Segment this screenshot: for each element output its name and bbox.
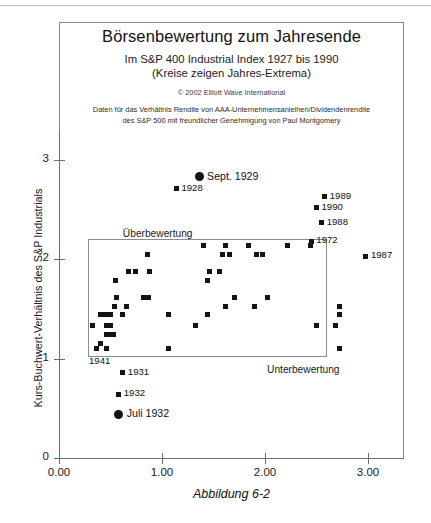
data-point [90, 323, 95, 328]
y-tick-mark [54, 359, 65, 360]
data-point [114, 295, 119, 300]
data-point [112, 304, 117, 309]
data-point [308, 243, 313, 248]
data-point [174, 186, 179, 191]
data-point-label: 1989 [330, 190, 351, 201]
data-point [205, 312, 210, 317]
data-point [314, 205, 319, 210]
data-point [265, 295, 270, 300]
data-point-label: 1972 [316, 234, 337, 245]
data-point [333, 323, 338, 328]
data-point [193, 323, 198, 328]
x-tick-label: 0.00 [29, 466, 89, 478]
figure-caption: Abbildung 6-2 [59, 487, 404, 501]
data-point-label: 1928 [181, 182, 202, 193]
data-point-extreme [114, 410, 123, 419]
valuation-reference-box [88, 239, 327, 356]
data-point [223, 243, 228, 248]
data-point [319, 220, 324, 225]
data-point [116, 392, 121, 397]
data-point [252, 304, 257, 309]
data-point [314, 323, 319, 328]
x-tick-label: 2.00 [235, 466, 295, 478]
data-point [246, 243, 251, 248]
data-point [111, 332, 116, 337]
zone-label-undervaluation: Unterbewertung [267, 364, 340, 375]
zone-label-overvaluation: Überbewertung [123, 228, 193, 239]
data-point [94, 346, 99, 351]
data-point [124, 304, 129, 309]
data-point [205, 278, 210, 283]
y-tick-label: 2 [27, 251, 49, 263]
x-tick-label: 1.00 [132, 466, 192, 478]
data-point-label: 1941 [89, 355, 110, 366]
x-tick-mark [59, 453, 60, 464]
y-tick-label: 0 [27, 450, 49, 462]
y-axis-title: Kurs-Buchwert-Verhältnis des S&P Industr… [32, 168, 44, 428]
data-point [108, 323, 113, 328]
data-point [232, 295, 237, 300]
data-point-label: 1931 [128, 366, 149, 377]
x-tick-mark [162, 453, 163, 464]
data-point [217, 269, 222, 274]
data-point [207, 269, 212, 274]
data-point [337, 304, 342, 309]
data-point [322, 194, 327, 199]
y-axis-line [59, 130, 60, 459]
data-point-label: 1990 [322, 201, 343, 212]
data-point [146, 295, 151, 300]
data-point-label: 1932 [124, 387, 145, 398]
x-tick-mark [368, 453, 369, 464]
data-point [145, 252, 150, 257]
y-tick-label: 1 [27, 351, 49, 363]
data-point [201, 243, 206, 248]
x-axis-line [59, 458, 404, 459]
x-tick-label: 3.00 [338, 466, 398, 478]
data-point-label: 1988 [327, 216, 348, 227]
data-point-extreme [195, 172, 204, 181]
data-point [133, 269, 138, 274]
data-point [220, 252, 225, 257]
scatter-plot: Kurs-Buchwert-Verhältnis des S&P Industr… [0, 0, 431, 523]
data-point [126, 269, 131, 274]
data-point [337, 346, 342, 351]
data-point [120, 370, 125, 375]
y-tick-mark [54, 160, 65, 161]
data-point [337, 312, 342, 317]
y-tick-mark [54, 259, 65, 260]
data-point [147, 269, 152, 274]
data-point [223, 304, 228, 309]
data-point [363, 254, 368, 259]
data-point-label: Sept. 1929 [207, 170, 258, 182]
data-point-label: Juli 1932 [127, 407, 169, 419]
data-point [260, 252, 265, 257]
data-point [104, 346, 109, 351]
data-point [227, 252, 232, 257]
data-point-label: 1987 [371, 249, 392, 260]
x-tick-mark [265, 453, 266, 464]
y-tick-label: 3 [27, 152, 49, 164]
data-point [113, 278, 118, 283]
data-point [254, 252, 259, 257]
data-point [285, 243, 290, 248]
data-point [166, 346, 171, 351]
data-point [166, 312, 171, 317]
data-point [120, 312, 125, 317]
data-point [108, 312, 113, 317]
